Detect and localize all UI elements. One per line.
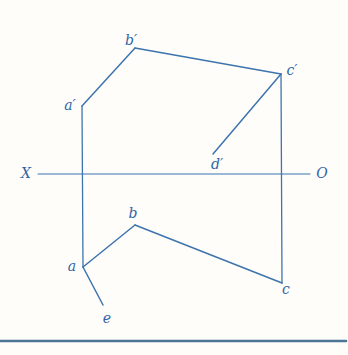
label-a-prime: a′ [64,97,76,113]
segment-b-c [135,225,282,283]
label-b: b [129,205,138,221]
segment-a-e [83,267,103,305]
segment-a-prime-b-prime [82,48,135,106]
label-c-prime: c′ [286,62,298,78]
label-x-axis-left: X [20,165,32,181]
label-b-prime: b′ [125,32,138,48]
label-d-prime: d′ [211,156,224,172]
projection-diagram: XOa′b′c′d′abce [0,0,348,355]
label-e: e [103,310,111,326]
figure-container: XOa′b′c′d′abce [0,0,348,355]
segment-projector-a-prime-a [82,106,83,267]
segment-projector-c-prime-c [281,74,282,283]
segment-a-b [83,225,135,267]
label-x-axis-right: O [316,165,328,181]
segments-group [0,48,346,341]
segment-b-prime-c-prime [135,48,281,74]
segment-c-prime-d-prime [213,74,281,154]
label-a: a [68,258,76,274]
label-c: c [282,281,290,297]
